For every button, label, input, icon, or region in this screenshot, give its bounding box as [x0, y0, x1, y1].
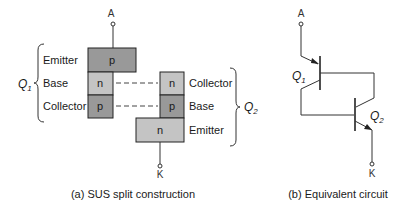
q1-label: Q1: [18, 77, 32, 93]
terminal-a-node: [111, 22, 115, 26]
figure-a-split-construction: A p n p n p n K Emitter Base Collector: [18, 8, 258, 200]
region-label: n: [157, 124, 163, 136]
q2-label: Q2: [244, 100, 258, 116]
q1-label: Q1: [292, 69, 306, 85]
sus-diagram: A p n p n p n K Emitter Base Collector: [0, 0, 399, 207]
terminal-k-node: [370, 162, 374, 166]
caption-b: (b) Equivalent circuit: [288, 188, 388, 200]
q2-emitter-arrow-icon: [364, 124, 372, 130]
q1-base-to-q2-collector: [320, 73, 374, 107]
terminal-k-label: K: [369, 168, 376, 179]
region-label: n: [169, 77, 175, 89]
region-label: p: [169, 100, 175, 112]
figure-b-equivalent-circuit: A K Q1 Q2 (b) Equivalent circuit: [288, 8, 388, 200]
terminal-k-node: [158, 164, 162, 168]
terminal-a-label: A: [108, 8, 115, 19]
q2-collector-label: Collector: [189, 77, 233, 89]
region-label: n: [97, 77, 103, 89]
terminal-k-label: K: [157, 169, 164, 180]
region-label: p: [97, 100, 103, 112]
q2-base-label: Base: [189, 100, 214, 112]
q1-emitter-lead: [301, 26, 318, 64]
q2-emitter-label: Emitter: [189, 124, 224, 136]
terminal-a-node: [299, 22, 303, 26]
q2-label: Q2: [370, 109, 384, 125]
q1-collector-label: Collector: [43, 100, 87, 112]
region-label: p: [109, 54, 115, 66]
q1-base-label: Base: [43, 77, 68, 89]
q1-emitter-arrow-icon: [311, 58, 319, 64]
q1-collector-to-q2-base: [301, 80, 354, 115]
caption-a: (a) SUS split construction: [71, 188, 195, 200]
terminal-a-label: A: [298, 8, 305, 19]
q1-emitter-label: Emitter: [43, 54, 78, 66]
